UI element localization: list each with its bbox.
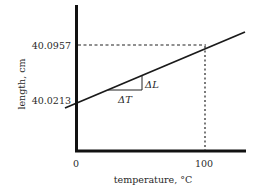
x-axis-label: temperature, °C [114,174,193,185]
y-tick-label-high: 40.0957 [32,40,71,51]
delta-l-annotation: ΔL [144,79,159,90]
data-line [65,32,245,108]
delta-t-annotation: ΔT [117,94,133,105]
x-tick-label-0: 0 [73,158,79,169]
y-tick-label-low: 40.0213 [32,95,71,106]
x-tick-label-100: 100 [195,158,213,169]
y-axis-label: length, cm [16,58,27,109]
thermal-expansion-chart: 40.0957 40.0213 length, cm 0 100 tempera… [0,0,263,189]
